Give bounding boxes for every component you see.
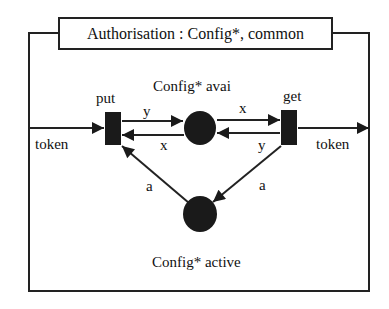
transition-put-label: put [96,91,115,106]
place-active-label: Config* active [152,255,241,270]
arc-active-to-put [122,146,189,203]
module-title-text: Authorisation : Config*, common [87,25,304,43]
arc-token-out-label: token [316,137,349,152]
arc-avail-to-put-label: x [160,138,168,153]
transition-get-label: get [283,89,301,104]
arc-get-to-active-label: a [259,178,266,193]
module-boundary [29,33,369,291]
arc-put-to-avail-label: y [143,104,151,119]
place-config-avail[interactable] [184,111,216,145]
arc-get-to-avail-label: y [258,138,266,153]
place-avail-label: Config* avai [153,79,231,94]
transition-put[interactable] [105,112,121,145]
arc-get-to-active [213,146,281,202]
module-title: Authorisation : Config*, common [58,17,333,50]
arc-avail-to-get-label: x [239,101,247,116]
arc-active-to-put-label: a [146,179,153,194]
arc-token-in-label: token [35,137,68,152]
place-config-active[interactable] [183,196,217,232]
transition-get[interactable] [281,110,297,145]
